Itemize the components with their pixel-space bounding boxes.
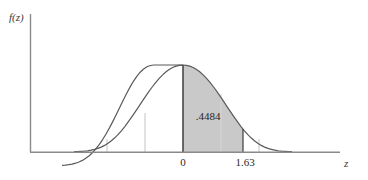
x-tick-label-0: 0 [180, 156, 186, 168]
normal-curve [62, 65, 183, 165]
x-axis-label: z [344, 157, 348, 169]
normal-distribution-figure: f(z) z 0 1.63 .4484 [0, 0, 368, 180]
shaded-area-0-to-1-63 [183, 65, 243, 152]
normal-curve-left [74, 65, 183, 152]
distribution-plot [0, 0, 368, 180]
x-tick-label-1-63: 1.63 [235, 156, 254, 168]
shaded-area-value-label: .4484 [196, 110, 221, 122]
y-axis-label: f(z) [9, 11, 24, 23]
